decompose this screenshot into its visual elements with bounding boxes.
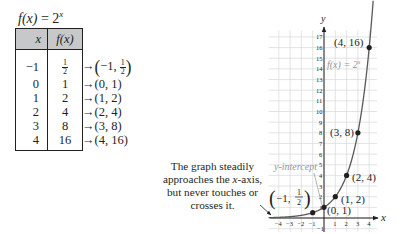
data-point <box>321 205 326 210</box>
svg-text:−2: −2 <box>297 220 304 227</box>
x-axis-label: x <box>380 211 386 223</box>
svg-text:5: 5 <box>319 161 322 168</box>
point-label-0-1: (0, 1) <box>327 204 351 217</box>
point-label-4-16: (4, 16) <box>334 36 364 49</box>
svg-text:−1: −1 <box>309 220 316 227</box>
svg-text:12: 12 <box>316 87 323 94</box>
svg-text:10: 10 <box>316 108 323 115</box>
data-point <box>344 173 349 178</box>
data-point <box>355 130 360 135</box>
svg-text:−1,: −1, <box>276 192 291 204</box>
svg-text:17: 17 <box>316 33 323 40</box>
exponential-graph: x y −4−3−2−11234−11234567891011121314151… <box>0 0 407 234</box>
svg-text:15: 15 <box>316 55 323 62</box>
data-point <box>310 210 315 215</box>
svg-text:1: 1 <box>297 188 301 197</box>
svg-text:9: 9 <box>319 119 322 126</box>
curve-label: f(x) = 2x <box>327 59 361 71</box>
svg-text:4: 4 <box>367 220 371 227</box>
point-label-3-8: (3, 8) <box>330 126 354 139</box>
svg-text:): ) <box>304 187 311 210</box>
svg-text:2: 2 <box>297 198 301 207</box>
svg-text:(: ( <box>269 187 276 210</box>
svg-text:3: 3 <box>319 183 322 190</box>
svg-text:13: 13 <box>316 76 323 83</box>
svg-text:8: 8 <box>319 129 322 136</box>
svg-text:−1: −1 <box>317 225 324 232</box>
point-label-2-4: (2, 4) <box>352 171 376 184</box>
svg-text:−4: −4 <box>275 220 283 227</box>
svg-text:2: 2 <box>345 220 348 227</box>
svg-text:−3: −3 <box>286 220 293 227</box>
data-point <box>367 45 372 50</box>
y-axis-label: y <box>320 13 326 24</box>
svg-text:11: 11 <box>316 97 322 104</box>
svg-text:3: 3 <box>356 220 359 227</box>
svg-text:1: 1 <box>333 220 336 227</box>
svg-text:16: 16 <box>316 44 323 51</box>
y-intercept-label: y-intercept <box>273 161 317 172</box>
data-point <box>333 194 338 199</box>
svg-text:14: 14 <box>316 65 323 72</box>
